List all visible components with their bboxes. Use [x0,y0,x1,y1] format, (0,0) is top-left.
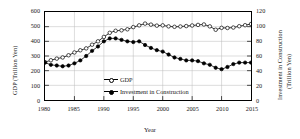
y-axis-right-tick-label: 120 [256,7,278,14]
y-axis-right-title-line2: (Trillion Yen) [285,54,292,89]
legend-marker-gdp [104,79,118,80]
legend-item-investment: Investment in Construction [104,88,189,95]
y-axis-right-tick-label: 60 [256,52,278,59]
y-axis-right-tick-label: 100 [256,22,278,29]
chart-canvas [45,12,251,100]
x-axis-tick-label: 1985 [59,105,89,112]
legend-label-investment: Investment in Construction [120,88,189,95]
y-axis-right-tick-label: 40 [256,67,278,74]
chart-figure: GDP (Trillion Yen) Investment in Constru… [0,0,300,139]
y-axis-left-tick-label: 500 [18,22,40,29]
x-axis-tick-label: 1980 [29,105,59,112]
y-axis-left-title: GDP (Trillion Yen) [11,46,18,95]
y-axis-left-tick-label: 600 [18,7,40,14]
x-axis-tick-label: 2005 [178,105,208,112]
x-axis-title: Year [0,126,300,133]
y-axis-right-tick-label: 20 [256,82,278,89]
legend-label-gdp: GDP [120,76,133,83]
x-axis-tick-label: 2000 [148,105,178,112]
legend-item-gdp: GDP [104,76,133,83]
y-axis-left-tick-label: 200 [18,67,40,74]
y-axis-right-tick-label: 80 [256,37,278,44]
x-axis-tick-label: 2010 [207,105,237,112]
x-axis-tick-label: 2015 [237,105,267,112]
x-axis-tick-label: 1990 [88,105,118,112]
y-axis-left-tick-label: 0 [18,97,40,104]
y-axis-left-tick-label: 100 [18,82,40,89]
y-axis-left-tick-label: 300 [18,52,40,59]
x-axis-tick-label: 1995 [118,105,148,112]
legend-marker-investment [104,91,118,92]
y-axis-left-tick-label: 400 [18,37,40,44]
y-axis-right-tick-label: 0 [256,97,278,104]
